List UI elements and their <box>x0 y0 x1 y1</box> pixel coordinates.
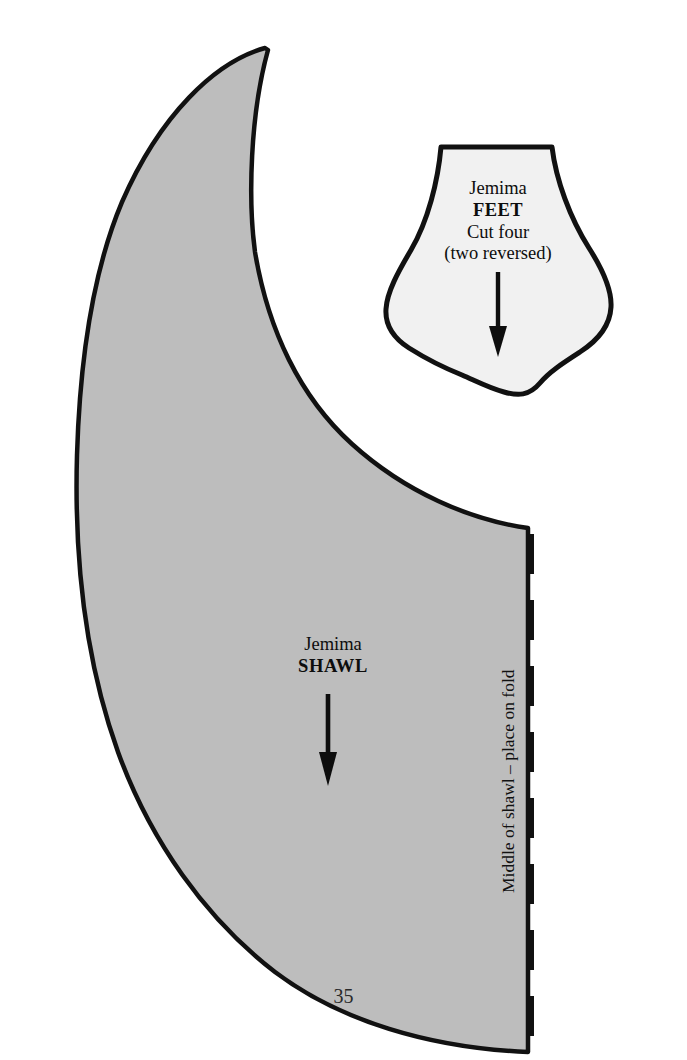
feet-label-part: FEET <box>403 200 593 222</box>
feet-label-cut-note: (two reversed) <box>403 243 593 265</box>
page-number: 35 <box>0 985 687 1009</box>
shawl-piece-label-block: Jemima SHAWL <box>238 634 428 678</box>
shawl-label-character: Jemima <box>238 634 428 656</box>
feet-label-character: Jemima <box>403 178 593 200</box>
pattern-drawing <box>0 0 687 1060</box>
feet-piece-label-block: Jemima FEET Cut four (two reversed) <box>403 178 593 265</box>
fold-line-label: Middle of shawl – place on fold <box>498 669 519 893</box>
shawl-label-part: SHAWL <box>238 656 428 678</box>
feet-label-cut-instruction: Cut four <box>403 222 593 244</box>
pattern-sheet-page: Jemima FEET Cut four (two reversed) Jemi… <box>0 0 687 1060</box>
